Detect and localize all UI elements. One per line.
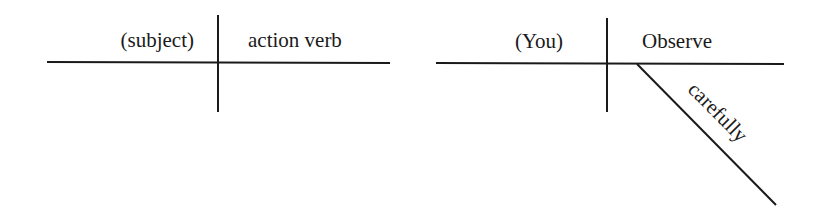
baseline <box>436 63 784 64</box>
sentence-diagrams: (subject) action verb (You) Observe care… <box>0 0 824 210</box>
diagram-example: (You) Observe carefully <box>436 18 784 205</box>
diagram-template: (subject) action verb <box>47 15 390 112</box>
modifier-label: carefully <box>683 77 753 147</box>
subject-label: (subject) <box>121 28 194 52</box>
verb-label: action verb <box>248 28 342 52</box>
subject-label: (You) <box>515 29 563 53</box>
verb-label: Observe <box>642 29 712 53</box>
